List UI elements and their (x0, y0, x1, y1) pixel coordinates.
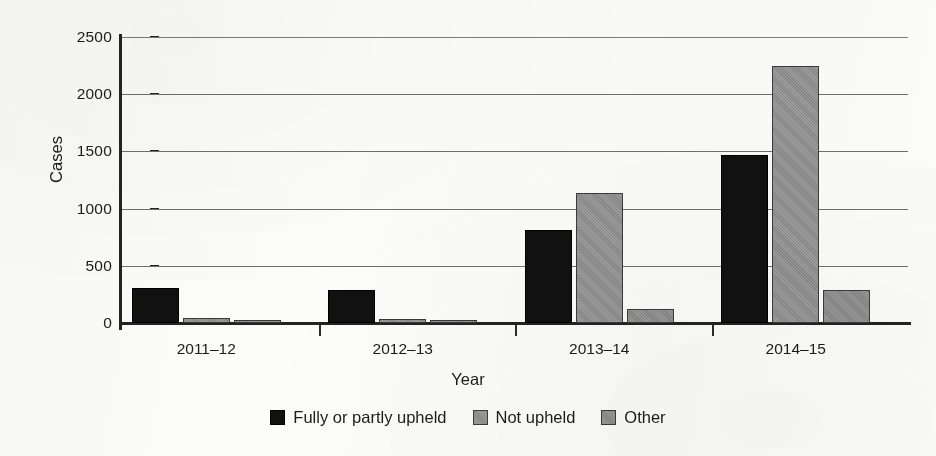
y-tick-label: 500 (86, 257, 112, 275)
x-tick-mark (712, 325, 714, 336)
bar (627, 309, 674, 323)
legend-item: Fully or partly upheld (270, 408, 446, 427)
bar (721, 155, 768, 323)
x-tick-label: 2014–15 (766, 340, 826, 358)
legend-swatch-icon (270, 410, 285, 425)
legend-label: Other (624, 408, 665, 427)
plot-area (122, 37, 908, 323)
bar (379, 319, 426, 323)
legend-label: Not upheld (496, 408, 576, 427)
bar (823, 290, 870, 323)
bar (576, 193, 623, 323)
y-tick-label: 0 (103, 314, 112, 332)
x-tick-mark (515, 325, 517, 336)
bar (328, 290, 375, 323)
gridline-2500 (122, 37, 908, 38)
bar (132, 288, 179, 323)
legend-swatch-icon (601, 410, 616, 425)
y-axis-title: Cases (47, 100, 66, 220)
legend-swatch-icon (473, 410, 488, 425)
y-tick-label: 1000 (77, 200, 112, 218)
legend-item: Not upheld (473, 408, 576, 427)
x-tick-label: 2012–13 (373, 340, 433, 358)
bar (525, 230, 572, 323)
y-tick-label: 2000 (77, 85, 112, 103)
bar (234, 320, 281, 323)
legend-label: Fully or partly upheld (293, 408, 446, 427)
chart-legend: Fully or partly upheldNot upheldOther (0, 408, 936, 427)
y-tick-label: 1500 (77, 142, 112, 160)
bar (772, 66, 819, 323)
x-axis-title: Year (0, 370, 936, 389)
chart-figure: 05001000150020002500 Cases 2011–122012–1… (0, 0, 936, 456)
x-tick-label: 2011–12 (177, 340, 236, 358)
bar (430, 320, 477, 323)
y-tick-label: 2500 (77, 28, 112, 46)
x-tick-mark (319, 325, 321, 336)
bar (183, 318, 230, 323)
legend-item: Other (601, 408, 665, 427)
x-tick-label: 2013–14 (569, 340, 629, 358)
